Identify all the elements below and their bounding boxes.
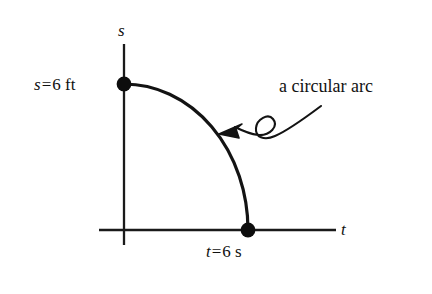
s-value-label: s=6 ft	[34, 76, 75, 93]
annotation-label: a circular arc	[279, 77, 373, 95]
annotation-arrowhead	[219, 124, 242, 138]
s-value-variable: s	[34, 75, 41, 94]
annotation-leader-line	[235, 106, 321, 138]
point-marker-t6	[241, 223, 256, 238]
s-value-unit: ft	[65, 75, 75, 94]
t-value-equals: =	[211, 242, 223, 261]
s-value-equals: =	[41, 75, 53, 94]
circular-arc-curve	[124, 84, 248, 230]
s-axis-label: s	[118, 22, 125, 39]
figure-canvas: s t s=6 ft t=6 s a circular arc	[0, 0, 432, 294]
s-value-number: 6	[52, 75, 61, 94]
t-value-number: 6	[222, 242, 231, 261]
point-marker-s6	[117, 77, 132, 92]
t-value-label: t=6 s	[206, 243, 242, 260]
t-axis-label: t	[341, 221, 346, 238]
t-value-unit: s	[235, 242, 242, 261]
